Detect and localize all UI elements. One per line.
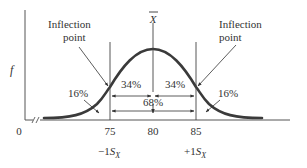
- origin-label: 0: [16, 125, 22, 137]
- center-right-percent: 34%: [165, 78, 185, 90]
- plus-1sd-label: +1SX: [184, 145, 207, 160]
- inflection-right-pointer: [198, 45, 236, 86]
- inflection-right-label-1: Inflection: [219, 18, 262, 30]
- y-axis-label: f: [10, 63, 15, 77]
- center-total-percent: 68%: [143, 96, 163, 108]
- inflection-left-label-1: Inflection: [48, 18, 91, 30]
- axis-break-mark: [36, 117, 39, 123]
- minus-1sd-label: −1SX: [98, 145, 121, 160]
- tick-80: 80: [148, 125, 160, 137]
- tick-85: 85: [191, 125, 203, 137]
- tail-left-percent: 16%: [68, 87, 88, 99]
- mean-label: X: [149, 13, 158, 25]
- normal-distribution-diagram: X f Inflection point Inflection point 16…: [0, 0, 307, 168]
- inflection-right-label-2: point: [219, 31, 242, 43]
- inflection-left-label-2: point: [63, 31, 86, 43]
- center-left-percent: 34%: [121, 78, 141, 90]
- tick-75: 75: [105, 125, 117, 137]
- inflection-left-pointer: [79, 47, 108, 86]
- tail-right-percent: 16%: [218, 87, 238, 99]
